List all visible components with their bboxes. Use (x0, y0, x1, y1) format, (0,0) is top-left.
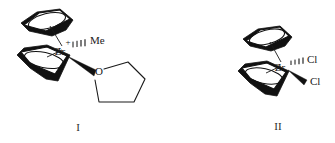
metal-label-zr-II: Zr (275, 61, 286, 73)
charge-label-plus-I: + (65, 37, 70, 47)
scheme-canvas: Zr + Me O I (0, 0, 335, 143)
hashed-bond-zr-chloride-upper-II (291, 58, 303, 65)
chloride-label-lower-II: Cl (310, 75, 320, 87)
methyl-label-me-I: Me (90, 34, 105, 46)
chemical-scheme-figure: Zr + Me O I (0, 0, 335, 143)
cp-ring-upper-left-I (21, 9, 73, 36)
chloride-label-upper-II: Cl (307, 53, 317, 65)
structure-label-I: I (76, 121, 80, 133)
structure-label-II: II (274, 120, 282, 132)
oxygen-label-o-I: O (95, 65, 103, 77)
cp-ring-upper-left-II (243, 26, 292, 51)
wedge-bond-zr-chloride-lower-II (288, 70, 307, 85)
metal-label-zr-I: Zr (55, 45, 66, 57)
hashed-bond-zr-methyl-I (73, 39, 85, 47)
structure-II-group: Zr Cl Cl II (238, 26, 320, 132)
wedge-bond-zr-oxygen-I (67, 56, 96, 76)
structure-I-group: Zr + Me O I (17, 9, 145, 133)
